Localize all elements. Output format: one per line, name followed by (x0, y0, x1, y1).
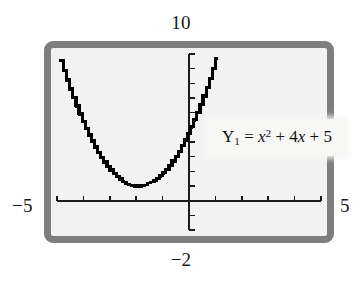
curve-pixel (180, 144, 183, 153)
curve-pixel (68, 78, 71, 90)
curve-pixel (105, 160, 108, 167)
equation-callout-box: Y1 = x2 + 4x + 5 (207, 119, 347, 156)
curve-pixel (208, 77, 211, 89)
curve-pixel (77, 104, 80, 115)
equation-subscript: 1 (234, 135, 240, 147)
curve-pixel (161, 171, 164, 177)
curve-pixel (108, 165, 111, 172)
curve-pixel (102, 156, 105, 164)
curve-pixel (118, 175, 121, 181)
equation-function-name: Y (222, 127, 234, 146)
curve-pixel (146, 182, 150, 185)
curve-pixel (140, 184, 144, 187)
curve-pixel (214, 57, 217, 70)
equation-plus-1: + (275, 127, 285, 146)
curve-pixel (121, 177, 124, 182)
curve-pixel (186, 132, 189, 142)
curve-pixel (195, 111, 198, 122)
calculator-screenshot: 10 −2 −5 5 Y1 = x2 + 4x + 5 (0, 0, 362, 286)
curve-pixel (133, 184, 137, 187)
x-min-label: −5 (12, 195, 33, 217)
curve-pixel (137, 184, 141, 187)
curve-pixel (65, 69, 68, 82)
y-min-label: −2 (0, 249, 362, 271)
curve-pixel (143, 184, 147, 187)
curve-pixel (71, 87, 74, 99)
curve-pixel (96, 145, 99, 154)
y-max-label: 10 (0, 12, 362, 34)
curve-pixel (124, 181, 128, 184)
curve-pixel (167, 164, 170, 171)
curve-pixel (158, 174, 161, 180)
curve-pixel (90, 133, 93, 142)
equation-term1-exponent: 2 (266, 127, 272, 139)
curve-pixel (93, 139, 96, 148)
curve-pixel (205, 86, 208, 98)
curve-pixel (130, 184, 134, 187)
curve-pixel (174, 155, 177, 163)
curve-pixel (177, 150, 180, 158)
curve-pixel (211, 67, 214, 80)
equation-plus-2: + (310, 127, 320, 146)
parabola-curve (59, 57, 218, 188)
curve-pixel (201, 94, 204, 106)
equation-term2-variable: x (298, 127, 306, 146)
curve-pixel (115, 172, 118, 178)
curve-pixel (62, 59, 65, 72)
curve-pixel (198, 103, 201, 114)
curve-pixel (127, 183, 131, 186)
curve-pixel (112, 168, 115, 175)
curve-pixel (84, 120, 87, 130)
equation-term2-coefficient: 4 (289, 127, 298, 146)
calculator-viewport-frame: Y1 = x2 + 4x + 5 (44, 41, 334, 243)
curve-pixel (192, 118, 195, 128)
curve-pixel (155, 177, 158, 182)
curve-pixel (81, 112, 84, 123)
x-max-label: 5 (340, 195, 350, 217)
curve-pixel (170, 159, 173, 166)
curve-pixel (99, 151, 102, 159)
curve-pixel (74, 96, 77, 107)
curve-pixel (189, 125, 192, 135)
curve-pixel (164, 168, 167, 175)
curve-pixel (149, 181, 153, 184)
equation-term3-constant: 5 (323, 127, 332, 146)
equation-term1-base: x (258, 127, 266, 146)
equation-label: Y1 = x2 + 4x + 5 (222, 128, 332, 147)
equation-equals: = (244, 127, 254, 146)
curve-pixel (183, 138, 186, 147)
curve-pixel (87, 127, 90, 137)
